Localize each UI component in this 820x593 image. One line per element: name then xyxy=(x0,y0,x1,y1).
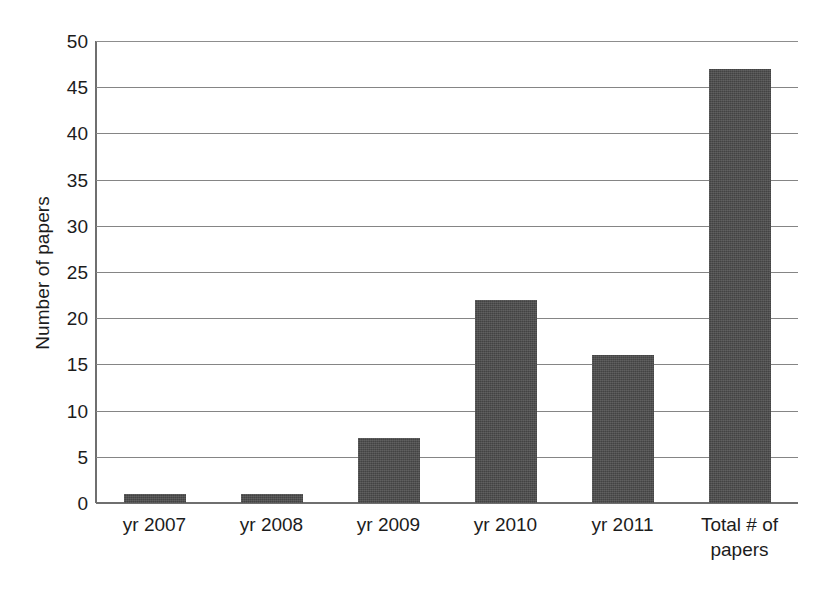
bar-chart: Number of papers 05101520253035404550 yr… xyxy=(0,0,820,593)
x-axis-tick-label: yr 2009 xyxy=(332,512,445,537)
bar xyxy=(475,300,537,503)
y-axis-tick-label: 5 xyxy=(28,447,88,466)
y-axis-tick-label: 25 xyxy=(28,263,88,282)
x-axis-tick-label: Total # of papers xyxy=(683,512,796,562)
y-axis-tick-label: 50 xyxy=(28,32,88,51)
bar xyxy=(358,438,420,503)
bar xyxy=(709,69,771,503)
bar xyxy=(241,494,303,503)
bar-series xyxy=(96,41,798,503)
y-axis-tick-label: 20 xyxy=(28,309,88,328)
x-axis-tick-labels: yr 2007yr 2008yr 2009yr 2010yr 2011Total… xyxy=(96,512,798,582)
x-axis-tick-label: yr 2011 xyxy=(566,512,679,537)
bar xyxy=(592,355,654,503)
y-axis-tick-label: 40 xyxy=(28,124,88,143)
y-axis-tick-label: 10 xyxy=(28,401,88,420)
bar xyxy=(124,494,186,503)
y-axis-tick-label: 0 xyxy=(28,494,88,513)
x-axis-tick-label: yr 2007 xyxy=(98,512,211,537)
y-axis-tick-label: 30 xyxy=(28,216,88,235)
y-axis-tick-label: 45 xyxy=(28,78,88,97)
y-axis-tick-label: 15 xyxy=(28,355,88,374)
x-axis-tick-label: yr 2008 xyxy=(215,512,328,537)
x-axis-tick-label: yr 2010 xyxy=(449,512,562,537)
plot-area xyxy=(96,41,798,503)
y-axis-tick-label: 35 xyxy=(28,170,88,189)
